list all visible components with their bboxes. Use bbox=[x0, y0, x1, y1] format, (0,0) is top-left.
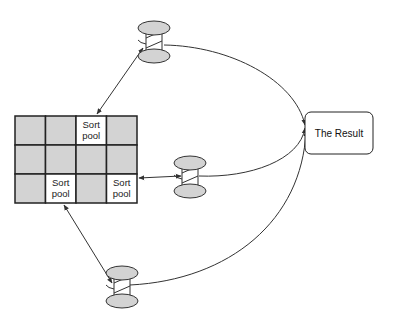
grid-cell bbox=[15, 116, 46, 145]
arrow-top-spool-to-pool bbox=[97, 48, 143, 114]
grid-cell bbox=[76, 145, 107, 174]
sort-grid: SortpoolSortpoolSortpool bbox=[15, 116, 137, 203]
result-box: The Result bbox=[305, 112, 373, 154]
diagram-canvas: SortpoolSortpoolSortpool The Result bbox=[0, 0, 395, 323]
grid-cell bbox=[46, 116, 77, 145]
grid-cell bbox=[46, 145, 77, 174]
curve-middle-spool-to-result bbox=[199, 128, 305, 176]
grid-cell bbox=[15, 174, 46, 203]
spool-bottom-icon bbox=[106, 266, 138, 308]
curve-bottom-spool-to-result bbox=[130, 131, 306, 285]
result-label: The Result bbox=[315, 128, 364, 139]
sort-pool-label: Sort bbox=[83, 119, 101, 130]
grid-cell bbox=[76, 174, 107, 203]
sort-pool-label: Sort bbox=[113, 177, 131, 188]
spool-top-icon bbox=[138, 21, 170, 63]
spool-middle-icon bbox=[174, 156, 206, 198]
grid-cell bbox=[107, 145, 138, 174]
sort-pool-label: Sort bbox=[52, 177, 70, 188]
grid-cell bbox=[107, 116, 138, 145]
sort-pool-label: pool bbox=[113, 188, 131, 199]
sort-pool-label: pool bbox=[82, 130, 100, 141]
result-curves bbox=[130, 45, 306, 285]
grid-cell bbox=[15, 145, 46, 174]
curve-top-spool-to-result bbox=[164, 45, 305, 125]
arrow-bottom-spool-to-pool bbox=[64, 205, 112, 283]
sort-pool-label: pool bbox=[52, 188, 70, 199]
